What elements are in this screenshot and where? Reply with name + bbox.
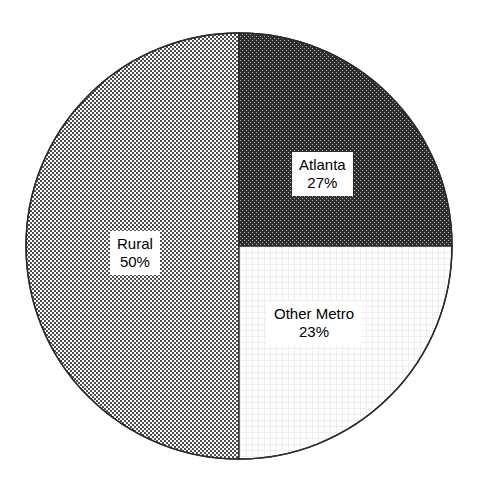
pie-label-other-metro: Other Metro 23% xyxy=(267,301,361,345)
pie-chart: Atlanta 27% Rural 50% Other Metro 23% xyxy=(0,0,478,481)
pie-slice-other-metro[interactable] xyxy=(239,246,452,459)
pie-label-rural: Rural 50% xyxy=(110,231,160,275)
pie-label-rural-value: 50% xyxy=(117,253,153,271)
pie-label-atlanta: Atlanta 27% xyxy=(292,152,353,196)
pie-label-atlanta-value: 27% xyxy=(299,174,346,192)
pie-label-rural-name: Rural xyxy=(117,235,153,253)
pie-label-other-metro-name: Other Metro xyxy=(274,305,354,323)
pie-slice-atlanta[interactable] xyxy=(239,33,452,246)
pie-chart-canvas xyxy=(0,0,478,481)
pie-label-other-metro-value: 23% xyxy=(274,323,354,341)
pie-label-atlanta-name: Atlanta xyxy=(299,156,346,174)
